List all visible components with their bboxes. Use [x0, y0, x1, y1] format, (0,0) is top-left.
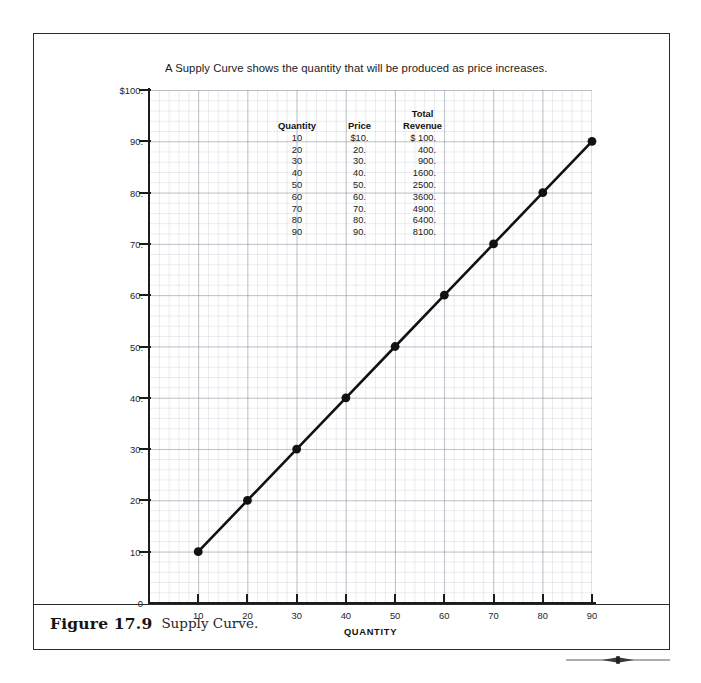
- table-header-row: Quantity Price Total Revenue: [262, 108, 458, 133]
- table-row: 3030.900.: [262, 156, 458, 168]
- caption-divider: [34, 604, 669, 605]
- supply-data-table: Quantity Price Total Revenue 10$10.$ 100…: [262, 108, 458, 239]
- table-cell-quantity: 20: [262, 145, 332, 157]
- x-axis-tick: [296, 594, 298, 603]
- x-axis-tick-label: 30: [291, 610, 301, 621]
- y-axis-tick-label: 90.: [130, 136, 143, 147]
- table-cell-revenue: 1600.: [387, 168, 458, 180]
- table-cell-price: 50.: [332, 180, 387, 192]
- table-row: 6060.3600.: [262, 192, 458, 204]
- table-cell-quantity: 50: [262, 180, 332, 192]
- x-axis-tick-label: 50: [390, 610, 400, 621]
- x-axis-tick-label: 70: [488, 610, 498, 621]
- table-cell-price: 80.: [332, 215, 387, 227]
- table-cell-price: 60.: [332, 192, 387, 204]
- x-axis-title: QUANTITY: [344, 627, 397, 637]
- y-axis-tick-label: 30.: [130, 444, 143, 455]
- table-cell-quantity: 70: [262, 204, 332, 216]
- chart-title: A Supply Curve shows the quantity that w…: [165, 62, 547, 74]
- column-header-price: Price: [332, 108, 387, 133]
- table-body: 10$10.$ 100.2020.400.3030.900.4040.1600.…: [262, 133, 458, 239]
- figure-frame: A Supply Curve shows the quantity that w…: [33, 33, 670, 650]
- table-row: 5050.2500.: [262, 180, 458, 192]
- figure-caption: Figure 17.9 Supply Curve.: [50, 607, 258, 639]
- table-cell-revenue: 900.: [387, 156, 458, 168]
- chart-plot-region: Quantity Price Total Revenue 10$10.$ 100…: [149, 90, 592, 603]
- x-axis-tick: [542, 594, 544, 603]
- table-row: 4040.1600.: [262, 168, 458, 180]
- x-axis-tick: [197, 594, 199, 603]
- x-axis-tick: [345, 594, 347, 603]
- y-axis-tick-label: 50.: [130, 341, 143, 352]
- table-cell-quantity: 90: [262, 227, 332, 239]
- table-cell-revenue: 3600.: [387, 192, 458, 204]
- x-axis-tick: [591, 594, 593, 603]
- column-header-quantity: Quantity: [262, 108, 332, 133]
- table-cell-quantity: 40: [262, 168, 332, 180]
- table-cell-quantity: 10: [262, 133, 332, 145]
- table-cell-revenue: 2500.: [387, 180, 458, 192]
- x-axis-tick-label: 90: [587, 610, 597, 621]
- table-row: 9090.8100.: [262, 227, 458, 239]
- table-cell-quantity: 60: [262, 192, 332, 204]
- x-axis-tick-label: 60: [439, 610, 449, 621]
- figure-caption-text: Supply Curve.: [161, 615, 258, 631]
- table-cell-revenue: 6400.: [387, 215, 458, 227]
- table-cell-price: 30.: [332, 156, 387, 168]
- table-cell-price: 40.: [332, 168, 387, 180]
- table-cell-revenue: 4900.: [387, 204, 458, 216]
- table-cell-price: 70.: [332, 204, 387, 216]
- column-header-total-revenue: Total Revenue: [387, 108, 458, 133]
- x-axis-tick-label: 80: [538, 610, 548, 621]
- figure-number: Figure 17.9: [50, 614, 152, 633]
- x-axis-tick: [443, 594, 445, 603]
- y-axis-tick-label: 70.: [130, 238, 143, 249]
- table-row: 7070.4900.: [262, 204, 458, 216]
- x-axis-tick: [246, 594, 248, 603]
- table-cell-price: 20.: [332, 145, 387, 157]
- x-axis-tick: [394, 594, 396, 603]
- table-cell-price: $10.: [332, 133, 387, 145]
- y-axis-tick-label: 10.: [130, 546, 143, 557]
- y-axis-tick-label: $100.: [120, 85, 143, 96]
- y-axis-tick-label: 60.: [130, 290, 143, 301]
- table-cell-quantity: 80: [262, 215, 332, 227]
- x-axis-tick: [493, 594, 495, 603]
- table-row: 8080.6400.: [262, 215, 458, 227]
- table-cell-revenue: 8100.: [387, 227, 458, 239]
- y-axis-tick-label: 80.: [130, 187, 143, 198]
- table-cell-revenue: 400.: [387, 145, 458, 157]
- table-cell-revenue: $ 100.: [387, 133, 458, 145]
- y-axis-tick-label: 20.: [130, 495, 143, 506]
- table-cell-price: 90.: [332, 227, 387, 239]
- table-row: 2020.400.: [262, 145, 458, 157]
- y-axis-tick-label: 40.: [130, 392, 143, 403]
- table-row: 10$10.$ 100.: [262, 133, 458, 145]
- table-cell-quantity: 30: [262, 156, 332, 168]
- x-axis-tick-label: 40: [341, 610, 351, 621]
- decorative-ornament: [566, 655, 674, 665]
